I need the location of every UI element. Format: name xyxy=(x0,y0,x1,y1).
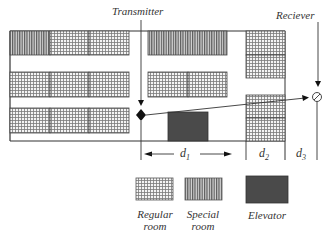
legend-elevator-swatch xyxy=(246,176,288,203)
regular-room xyxy=(246,95,285,118)
legend-regular-swatch xyxy=(136,178,173,200)
receiver-label: Reciever xyxy=(276,10,314,21)
transmitter-label: Transmitter xyxy=(112,6,163,17)
regular-room xyxy=(10,72,50,97)
regular-room xyxy=(50,108,89,133)
regular-room xyxy=(89,31,129,55)
receiver-pointer xyxy=(315,22,321,87)
regular-room xyxy=(188,72,227,97)
room-row-2 xyxy=(10,72,227,97)
room-row-1 xyxy=(10,31,285,78)
regular-room xyxy=(246,31,285,55)
room-row-3 xyxy=(10,95,285,141)
dimension-d1: d1 xyxy=(180,147,190,162)
regular-room xyxy=(246,118,285,141)
elevator xyxy=(168,112,208,141)
legend-elevator-label: Elevator xyxy=(238,210,296,222)
regular-room xyxy=(89,72,129,97)
regular-room xyxy=(148,72,188,97)
regular-room xyxy=(10,108,50,133)
dimension-d2: d2 xyxy=(259,147,269,162)
legend-special-swatch xyxy=(185,178,222,200)
receiver-icon xyxy=(313,93,322,102)
special-room xyxy=(148,31,227,55)
regular-room xyxy=(50,31,89,55)
legend-regular-label: Regular room xyxy=(128,209,182,232)
transmitter-pointer xyxy=(138,20,144,106)
legend-special-label: Special room xyxy=(176,209,230,232)
regular-room xyxy=(50,72,89,97)
dimension-d3: d3 xyxy=(296,147,306,162)
regular-room xyxy=(246,55,285,78)
regular-room xyxy=(89,108,129,133)
special-room xyxy=(10,31,50,55)
floor-plan-diagram xyxy=(0,0,328,237)
transmitter-icon xyxy=(136,109,146,121)
